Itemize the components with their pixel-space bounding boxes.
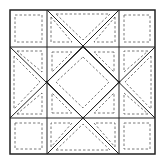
dot-top: [82, 46, 85, 49]
dot-right: [118, 81, 121, 84]
dot-bottom: [82, 117, 85, 120]
dot-left: [46, 81, 49, 84]
background: [0, 0, 164, 160]
quilt-block-diagram: [0, 0, 164, 160]
